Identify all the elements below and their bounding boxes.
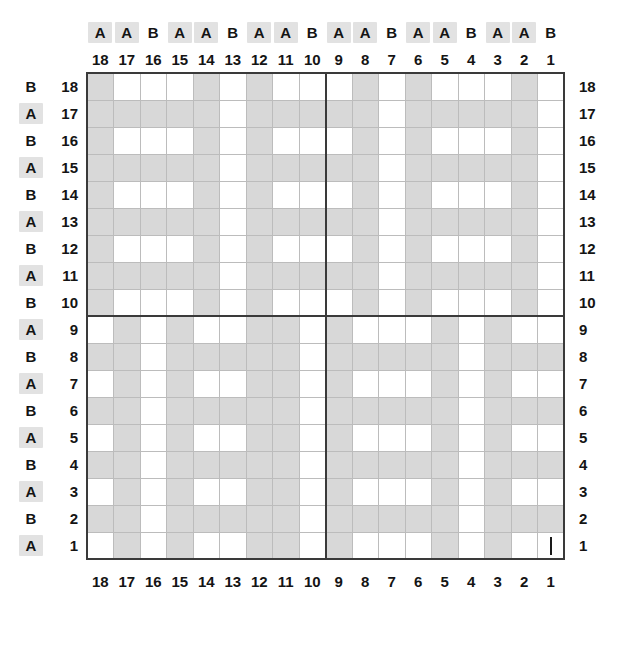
chart-cell[interactable]: [87, 532, 114, 559]
chart-cell[interactable]: [405, 343, 432, 370]
chart-cell[interactable]: [326, 127, 353, 154]
chart-cell[interactable]: [167, 154, 194, 181]
chart-cell[interactable]: [273, 154, 300, 181]
chart-cell[interactable]: [299, 343, 326, 370]
chart-cell[interactable]: [538, 208, 565, 235]
chart-cell[interactable]: [326, 397, 353, 424]
chart-cell[interactable]: [87, 424, 114, 451]
chart-cell[interactable]: [511, 532, 538, 559]
chart-cell[interactable]: [299, 154, 326, 181]
chart-cell[interactable]: [352, 289, 379, 316]
chart-cell[interactable]: [326, 181, 353, 208]
chart-cell[interactable]: [538, 505, 565, 532]
chart-cell[interactable]: [485, 397, 512, 424]
chart-cell[interactable]: [405, 532, 432, 559]
chart-cell[interactable]: [379, 343, 406, 370]
chart-cell[interactable]: [87, 262, 114, 289]
chart-cell[interactable]: [273, 424, 300, 451]
chart-cell[interactable]: [352, 532, 379, 559]
chart-cell[interactable]: [326, 532, 353, 559]
chart-cell[interactable]: [140, 235, 167, 262]
chart-cell[interactable]: [326, 478, 353, 505]
chart-cell[interactable]: [405, 127, 432, 154]
chart-cell[interactable]: [246, 532, 273, 559]
chart-cell[interactable]: [299, 289, 326, 316]
chart-cell[interactable]: [432, 316, 459, 343]
chart-cell[interactable]: [87, 316, 114, 343]
chart-cell[interactable]: [538, 100, 565, 127]
chart-cell[interactable]: [352, 127, 379, 154]
chart-cell[interactable]: [167, 262, 194, 289]
chart-cell[interactable]: [87, 154, 114, 181]
chart-cell[interactable]: [405, 451, 432, 478]
chart-cell[interactable]: [140, 316, 167, 343]
chart-cell[interactable]: [246, 154, 273, 181]
chart-cell[interactable]: [114, 208, 141, 235]
chart-cell[interactable]: [485, 208, 512, 235]
chart-cell[interactable]: [299, 100, 326, 127]
chart-cell[interactable]: [220, 370, 247, 397]
chart-cell[interactable]: [140, 370, 167, 397]
chart-cell[interactable]: [405, 100, 432, 127]
chart-cell[interactable]: [432, 289, 459, 316]
chart-cell[interactable]: [299, 397, 326, 424]
chart-cell[interactable]: [326, 208, 353, 235]
chart-cell[interactable]: [87, 343, 114, 370]
chart-cell[interactable]: [405, 235, 432, 262]
chart-cell[interactable]: [193, 532, 220, 559]
chart-cell[interactable]: [273, 316, 300, 343]
chart-cell[interactable]: [87, 181, 114, 208]
chart-cell[interactable]: [140, 208, 167, 235]
chart-cell[interactable]: [511, 100, 538, 127]
chart-cell[interactable]: [538, 397, 565, 424]
chart-cell[interactable]: [485, 478, 512, 505]
chart-cell[interactable]: [193, 478, 220, 505]
chart-cell[interactable]: [405, 262, 432, 289]
chart-cell[interactable]: [193, 73, 220, 100]
chart-cell[interactable]: [511, 181, 538, 208]
chart-cell[interactable]: [379, 451, 406, 478]
chart-cell[interactable]: [167, 100, 194, 127]
chart-cell[interactable]: [352, 262, 379, 289]
chart-cell[interactable]: [458, 532, 485, 559]
chart-cell[interactable]: [299, 370, 326, 397]
chart-cell[interactable]: [193, 262, 220, 289]
chart-cell[interactable]: [379, 370, 406, 397]
chart-cell[interactable]: [485, 235, 512, 262]
chart-cell[interactable]: [511, 208, 538, 235]
chart-cell[interactable]: [405, 370, 432, 397]
chart-cell[interactable]: [485, 262, 512, 289]
chart-cell[interactable]: [193, 154, 220, 181]
chart-cell[interactable]: [87, 100, 114, 127]
chart-cell[interactable]: [352, 424, 379, 451]
chart-cell[interactable]: [405, 154, 432, 181]
chart-cell[interactable]: [220, 262, 247, 289]
chart-cell[interactable]: [538, 532, 565, 559]
chart-cell[interactable]: [167, 73, 194, 100]
chart-cell[interactable]: [273, 127, 300, 154]
chart-cell[interactable]: [246, 316, 273, 343]
chart-cell[interactable]: [299, 73, 326, 100]
chart-cell[interactable]: [458, 424, 485, 451]
chart-cell[interactable]: [140, 478, 167, 505]
chart-cell[interactable]: [273, 505, 300, 532]
chart-cell[interactable]: [299, 127, 326, 154]
chart-cell[interactable]: [485, 127, 512, 154]
chart-cell[interactable]: [352, 154, 379, 181]
chart-cell[interactable]: [167, 532, 194, 559]
chart-cell[interactable]: [114, 532, 141, 559]
chart-cell[interactable]: [114, 262, 141, 289]
chart-cell[interactable]: [273, 235, 300, 262]
chart-cell[interactable]: [220, 316, 247, 343]
chart-cell[interactable]: [167, 370, 194, 397]
chart-cell[interactable]: [87, 73, 114, 100]
chart-cell[interactable]: [485, 181, 512, 208]
chart-cell[interactable]: [352, 397, 379, 424]
chart-cell[interactable]: [538, 154, 565, 181]
chart-cell[interactable]: [220, 154, 247, 181]
chart-cell[interactable]: [511, 262, 538, 289]
chart-cell[interactable]: [352, 505, 379, 532]
chart-cell[interactable]: [193, 397, 220, 424]
chart-cell[interactable]: [538, 370, 565, 397]
chart-cell[interactable]: [193, 343, 220, 370]
